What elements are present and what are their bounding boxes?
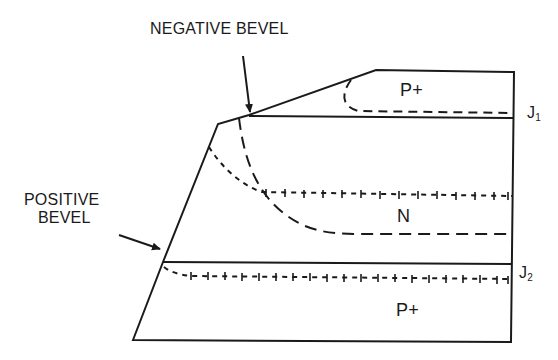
positive-bevel-label-line2: BEVEL xyxy=(38,209,91,227)
device-outline xyxy=(133,70,514,342)
negative-bevel-arrow xyxy=(243,56,250,112)
junction-j1-label: J1 xyxy=(527,104,541,127)
negative-bevel-label: NEGATIVE BEVEL xyxy=(150,20,289,38)
bottom-p-region-label: P+ xyxy=(396,301,419,319)
charge-ticks-lower xyxy=(191,272,508,284)
positive-bevel-label-line1: POSITIVE xyxy=(24,191,99,209)
positive-bevel-arrow xyxy=(119,235,160,249)
n-depletion-edge-upper xyxy=(209,147,512,196)
j2-depletion-edge xyxy=(164,267,512,279)
top-p-region-label: P+ xyxy=(400,81,423,99)
bevel-diagram xyxy=(0,0,558,360)
junction-j2-label: J2 xyxy=(519,264,533,287)
junction-j2-line xyxy=(163,262,512,264)
top-p-depletion-edge xyxy=(344,80,513,113)
n-depletion-edge-j1 xyxy=(239,118,512,234)
n-region-label: N xyxy=(397,207,410,225)
junction-j1-line xyxy=(249,116,514,118)
